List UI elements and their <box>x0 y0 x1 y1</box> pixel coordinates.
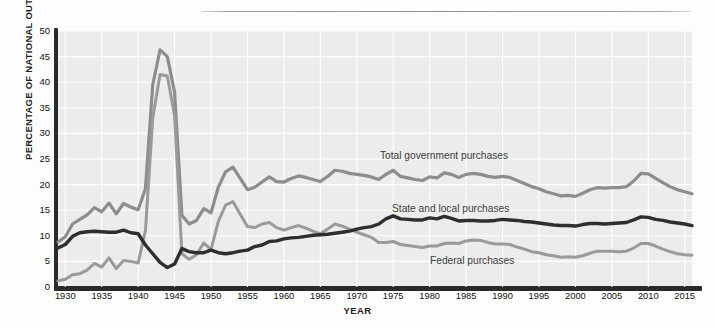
series-label: Total government purchases <box>380 150 508 161</box>
chart-figure: PERCENTAGE OF NATIONAL OUTPUT 0510152025… <box>0 0 715 329</box>
x-axis-title: YEAR <box>0 305 715 316</box>
series-label: State and local purchases <box>392 203 509 214</box>
series-label: Federal purchases <box>430 255 514 266</box>
series-annotations: Total government purchasesState and loca… <box>0 0 715 329</box>
